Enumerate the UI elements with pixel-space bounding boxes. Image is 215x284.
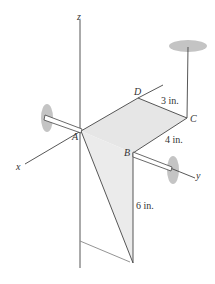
shaft-diagram: z x y A B C D 3 in. 4 in. 6 in. — [0, 0, 215, 284]
dimension-dc: 3 in. — [161, 96, 179, 106]
x-axis-label: x — [16, 162, 20, 172]
point-b-label: B — [124, 148, 130, 158]
z-axis-label: z — [77, 12, 81, 22]
shaft-b — [133, 152, 172, 171]
y-axis-label: y — [196, 171, 200, 181]
dimension-vertical: 6 in. — [136, 201, 154, 211]
point-c-label: C — [190, 114, 197, 124]
point-d-label: D — [134, 87, 141, 97]
point-a-label: A — [72, 132, 78, 142]
dimension-cb: 4 in. — [165, 135, 183, 145]
